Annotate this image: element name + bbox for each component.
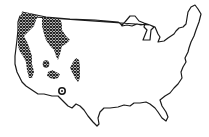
us-distribution-map [0,0,209,137]
shaded-region-pacific-northwest-coast [18,12,38,78]
shaded-region-colorado-rockies [70,58,80,82]
shaded-region-northern-rockies [42,17,70,60]
shaded-region-utah-patch [47,70,60,79]
shaded-region-nevada-spot [43,61,49,68]
shaded-region-arizona-spot-center [61,90,63,92]
